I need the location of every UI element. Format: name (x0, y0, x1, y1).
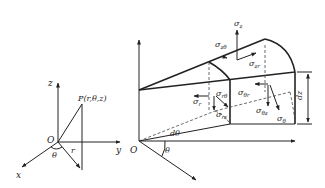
element-theta-label: θ (165, 146, 170, 155)
origin-label: O (47, 135, 55, 145)
sigma-thetar-label: σθr (238, 88, 250, 98)
sigma-rtheta-label: σrθ (216, 89, 228, 99)
sigma-thetaz-label: σθz (256, 106, 268, 116)
sigma-rz-label: σrz (216, 110, 227, 120)
coordinate-system-diagram: z y x O P(r,θ,z) θ r (16, 78, 122, 180)
point-label: P(r,θ,z) (77, 94, 107, 103)
sigma-theta-label: σθ (277, 114, 286, 124)
sigma-r-label: σr (193, 97, 201, 107)
sigma-zr-label: σzr (249, 59, 260, 69)
y-axis-label: y (115, 145, 122, 155)
radius-vector (58, 142, 80, 168)
sigma-theta-arrow (270, 85, 279, 110)
dz-label: dz (295, 90, 304, 100)
element-origin-label: O (130, 145, 138, 155)
x-axis-label: x (16, 170, 21, 180)
sigma-ztheta-label: σzθ (215, 40, 227, 50)
theta-arc (51, 147, 62, 149)
position-vector (58, 104, 82, 142)
bottom-edge-inner (139, 124, 230, 141)
stress-element-diagram: O θ dθ dz σz σzθ σzr σr σrθ σrz σθr σθz … (130, 19, 312, 180)
sigma-ztheta-arrow (224, 57, 227, 58)
r-label: r (71, 146, 76, 155)
dtheta-label: dθ (170, 129, 180, 138)
theta-label: θ (52, 151, 57, 160)
outer-top-arc (265, 39, 295, 72)
sigma-z-label: σz (234, 19, 242, 29)
z-axis-label: z (47, 78, 53, 88)
inner-top-arc (209, 62, 230, 80)
cylindrical-coordinates-figure: z y x O P(r,θ,z) θ r (0, 0, 325, 188)
